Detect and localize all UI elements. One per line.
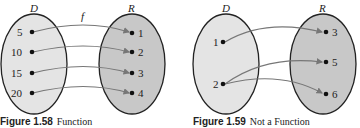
domain-value: 2 [213, 79, 219, 90]
range-set-ellipse [99, 14, 165, 114]
range-label: R [319, 3, 326, 14]
domain-value: 1 [213, 37, 219, 48]
domain-set-ellipse [193, 14, 259, 114]
range-value: 5 [332, 57, 338, 68]
domain-label: D [222, 3, 230, 14]
caption-number: Figure 1.59 [193, 116, 246, 127]
domain-value: 5 [17, 27, 23, 38]
range-value: 4 [138, 88, 144, 99]
range-value: 3 [332, 27, 338, 38]
caption-text: Not a Function [250, 116, 310, 127]
function-label: f [81, 11, 84, 22]
caption-number: Figure 1.58 [0, 116, 53, 127]
figure-caption: Figure 1.58Function [0, 116, 92, 127]
figure-not-a-function: D R 1 2 3 5 6 Figure 1.59Not a Function [180, 0, 360, 128]
domain-set-ellipse [1, 14, 67, 114]
range-value: 1 [138, 28, 144, 39]
caption-text: Function [57, 116, 93, 127]
range-label: R [128, 3, 135, 14]
function-mapping-diagram [0, 0, 180, 128]
range-value: 3 [138, 68, 144, 79]
range-set-ellipse [290, 14, 356, 114]
range-value: 2 [138, 47, 144, 58]
figure-function: D R f 5 10 15 20 1 2 3 4 Figure 1.58Func… [0, 0, 180, 128]
domain-value: 10 [11, 47, 22, 58]
domain-value: 20 [11, 88, 22, 99]
range-value: 6 [332, 89, 338, 100]
figure-caption: Figure 1.59Not a Function [193, 116, 310, 127]
domain-label: D [30, 3, 38, 14]
domain-value: 15 [11, 68, 22, 79]
